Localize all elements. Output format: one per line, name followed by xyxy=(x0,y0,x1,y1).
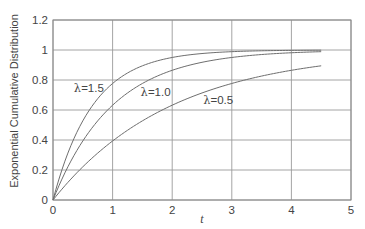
x-tick-label: 5 xyxy=(348,204,354,216)
x-tick-label: 3 xyxy=(229,204,235,216)
y-tick-label: 0.4 xyxy=(32,134,49,146)
y-tick-label: 0 xyxy=(42,194,48,206)
x-tick-label: 2 xyxy=(169,204,175,216)
y-tick-label: 0.6 xyxy=(32,104,48,116)
curve-label: λ=1.5 xyxy=(74,81,104,95)
x-tick-label: 0 xyxy=(50,204,56,216)
y-tick-label: 1.2 xyxy=(32,14,48,26)
x-tick-label: 4 xyxy=(288,204,295,216)
curve-annotations: λ=1.5λ=1.0λ=0.5 xyxy=(74,81,233,107)
exponential-cdf-chart: 00.20.40.60.811.2 012345 Exponential Cum… xyxy=(0,0,365,229)
y-tick-label: 0.8 xyxy=(32,74,48,86)
y-axis-ticks: 00.20.40.60.811.2 xyxy=(32,14,49,206)
curves xyxy=(53,50,321,200)
curve-label: λ=1.0 xyxy=(141,85,171,99)
y-tick-label: 0.2 xyxy=(32,164,48,176)
x-axis-label: t xyxy=(200,212,204,226)
curve-label: λ=0.5 xyxy=(203,93,233,107)
y-axis-label: Exponential Cumulative Distribution xyxy=(8,14,20,188)
gridlines xyxy=(53,20,351,200)
y-tick-label: 1 xyxy=(42,44,48,56)
x-tick-label: 1 xyxy=(109,204,115,216)
cdf-curve-lambda-1 xyxy=(53,52,321,200)
